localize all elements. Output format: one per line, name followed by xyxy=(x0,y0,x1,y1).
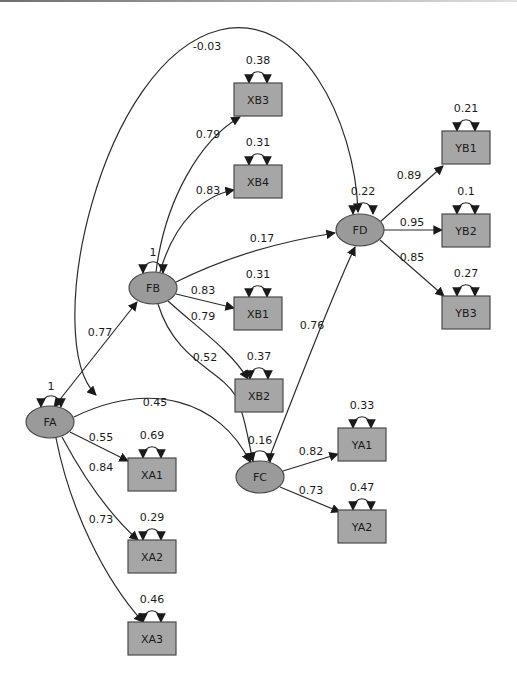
observed-node-XB4[interactable]: XB4 xyxy=(234,165,282,198)
loading-label-XB2: 0.79 xyxy=(191,310,216,323)
observed-node-XA1[interactable]: XA1 xyxy=(128,458,176,491)
observed-node-XA2[interactable]: XA2 xyxy=(128,540,176,573)
node-label: XB1 xyxy=(247,308,269,321)
loading-label-XA3: 0.73 xyxy=(89,513,114,526)
variance-loop-XA2 xyxy=(143,529,161,540)
path-label-FA-FD: -0.03 xyxy=(193,40,221,53)
variance-label-XB4: 0.31 xyxy=(246,136,271,149)
observed-node-XB3[interactable]: XB3 xyxy=(234,83,282,116)
variance-label-YB3: 0.27 xyxy=(454,267,479,280)
node-label: YA2 xyxy=(351,521,372,534)
variance-label-YA2: 0.47 xyxy=(350,481,375,494)
observed-node-YB2[interactable]: YB2 xyxy=(442,214,490,247)
loading-FB-XB4 xyxy=(160,190,234,272)
node-label: XB4 xyxy=(247,176,269,189)
node-label: YB1 xyxy=(454,142,476,155)
node-label: YB2 xyxy=(454,225,476,238)
node-label: XA3 xyxy=(141,633,163,646)
loading-label-YA2: 0.73 xyxy=(299,484,324,497)
path-label-FA-FB: 0.77 xyxy=(88,326,113,339)
variance-loop-XB3 xyxy=(249,72,267,83)
variance-loop-XA1 xyxy=(143,447,161,458)
loading-label-XB3: 0.79 xyxy=(196,128,221,141)
loading-label-YB3: 0.85 xyxy=(400,251,425,264)
variance-label-YB2: 0.1 xyxy=(457,185,475,198)
observed-node-XA3[interactable]: XA3 xyxy=(128,622,176,655)
variance-loop-YB2 xyxy=(457,203,475,214)
path-label-FC-FD: 0.76 xyxy=(300,319,325,332)
variance-loop-YB3 xyxy=(457,285,475,296)
path-label-FB-FD: 0.17 xyxy=(250,232,275,245)
variance-label-XA3: 0.46 xyxy=(140,593,165,606)
node-label: XB3 xyxy=(247,94,269,107)
observed-node-XB2[interactable]: XB2 xyxy=(235,379,283,412)
node-label: FD xyxy=(353,224,368,237)
loading-label-YA1: 0.82 xyxy=(299,445,324,458)
variance-label-XB1: 0.31 xyxy=(246,268,271,281)
variance-label-XA2: 0.29 xyxy=(140,511,165,524)
node-label: FC xyxy=(253,471,267,484)
node-label: YA1 xyxy=(351,439,372,452)
node-label: XA1 xyxy=(141,469,163,482)
node-label: XB2 xyxy=(248,390,270,403)
latent-node-FD[interactable]: FD xyxy=(336,214,384,246)
loading-label-XA2: 0.84 xyxy=(89,461,114,474)
variance-loop-XB4 xyxy=(249,154,267,165)
variance-loop-XA3 xyxy=(143,611,161,622)
observed-node-YA1[interactable]: YA1 xyxy=(338,428,386,461)
variance-loop-XB1 xyxy=(249,286,267,297)
variance-loop-YA1 xyxy=(353,417,371,428)
latent-node-FA[interactable]: FA xyxy=(26,406,74,438)
variance-loop-XB2 xyxy=(250,368,268,379)
latent-node-FC[interactable]: FC xyxy=(236,461,284,493)
variance-label-XB2: 0.37 xyxy=(247,350,272,363)
variance-label-YA1: 0.33 xyxy=(350,399,375,412)
node-label: YB3 xyxy=(454,307,476,320)
observed-node-YA2[interactable]: YA2 xyxy=(338,510,386,543)
loading-FD-YB3 xyxy=(380,240,444,296)
variance-label-FA: 1 xyxy=(48,380,55,393)
observed-node-XB1[interactable]: XB1 xyxy=(234,297,282,330)
observed-node-YB1[interactable]: YB1 xyxy=(442,131,490,164)
variance-loop-YA2 xyxy=(353,499,371,510)
node-label: XA2 xyxy=(141,551,163,564)
variance-label-FC: 0.16 xyxy=(248,434,273,447)
sem-path-diagram: FA FB FC FD XB3 XB4 XB1 XB2 YB1 YB2 YB3 xyxy=(0,0,517,682)
variance-label-FD: 0.22 xyxy=(351,185,376,198)
node-label: FA xyxy=(44,416,57,429)
variance-loop-YB1 xyxy=(457,120,475,131)
loading-label-XB1: 0.83 xyxy=(191,284,216,297)
loading-label-XB4: 0.83 xyxy=(196,184,221,197)
variance-label-XA1: 0.69 xyxy=(140,429,165,442)
variance-label-XB3: 0.38 xyxy=(246,54,271,67)
node-label: FB xyxy=(146,282,160,295)
path-label-FB-FC: 0.52 xyxy=(193,351,218,364)
path-FA-FB xyxy=(54,302,137,407)
loading-label-XA1: 0.55 xyxy=(89,431,114,444)
observed-node-YB3[interactable]: YB3 xyxy=(442,296,490,329)
variance-loop-FD xyxy=(353,203,373,214)
variance-label-FB: 1 xyxy=(150,246,157,259)
variance-label-YB1: 0.21 xyxy=(454,102,479,115)
loading-label-YB2: 0.95 xyxy=(400,216,425,229)
loading-label-YB1: 0.89 xyxy=(397,169,422,182)
latent-node-FB[interactable]: FB xyxy=(129,272,177,304)
path-label-FA-FC: 0.45 xyxy=(143,396,168,409)
